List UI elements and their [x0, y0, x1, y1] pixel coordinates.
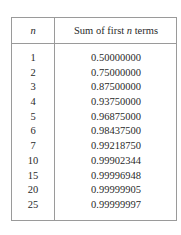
table-row: 200.99999905: [12, 183, 176, 198]
header-sum-suffix: terms: [132, 25, 158, 36]
cell-sum: 0.99218750: [55, 139, 177, 154]
table-row: 70.99218750: [12, 139, 176, 154]
cell-n: 3: [12, 80, 54, 95]
cell-n: 25: [12, 198, 54, 213]
table-row: 30.87500000: [12, 80, 176, 95]
cell-sum: 0.93750000: [55, 95, 177, 110]
header-sum-prefix: Sum of first: [74, 25, 127, 36]
cell-sum: 0.99996948: [55, 169, 177, 184]
table-row: 60.98437500: [12, 124, 176, 139]
cell-n: 7: [12, 139, 54, 154]
cell-n: 6: [12, 124, 54, 139]
table-row: 10.50000000: [12, 51, 176, 66]
cell-sum: 0.75000000: [55, 66, 177, 81]
table-row: 150.99996948: [12, 169, 176, 184]
cell-n: 4: [12, 95, 54, 110]
cell-n: 10: [12, 154, 54, 169]
table-row: 250.99999997: [12, 198, 176, 213]
cell-n: 15: [12, 169, 54, 184]
header-sum: Sum of first n terms: [55, 18, 177, 43]
cell-sum: 0.50000000: [55, 51, 177, 66]
cell-n: 2: [12, 66, 54, 81]
table-row: 50.96875000: [12, 110, 176, 125]
header-n: n: [12, 18, 54, 43]
cell-sum: 0.98437500: [55, 124, 177, 139]
table-body: 10.50000000 20.75000000 30.87500000 40.9…: [12, 51, 176, 213]
cell-sum: 0.99999997: [55, 198, 177, 213]
cell-sum: 0.99999905: [55, 183, 177, 198]
partial-sums-table: n Sum of first n terms 10.50000000 20.75…: [11, 17, 177, 221]
cell-n: 1: [12, 51, 54, 66]
cell-sum: 0.99902344: [55, 154, 177, 169]
cell-n: 5: [12, 110, 54, 125]
header-divider: [12, 43, 176, 44]
cell-sum: 0.87500000: [55, 80, 177, 95]
cell-sum: 0.96875000: [55, 110, 177, 125]
cell-n: 20: [12, 183, 54, 198]
table-row: 20.75000000: [12, 66, 176, 81]
table-row: 100.99902344: [12, 154, 176, 169]
table-row: 40.93750000: [12, 95, 176, 110]
